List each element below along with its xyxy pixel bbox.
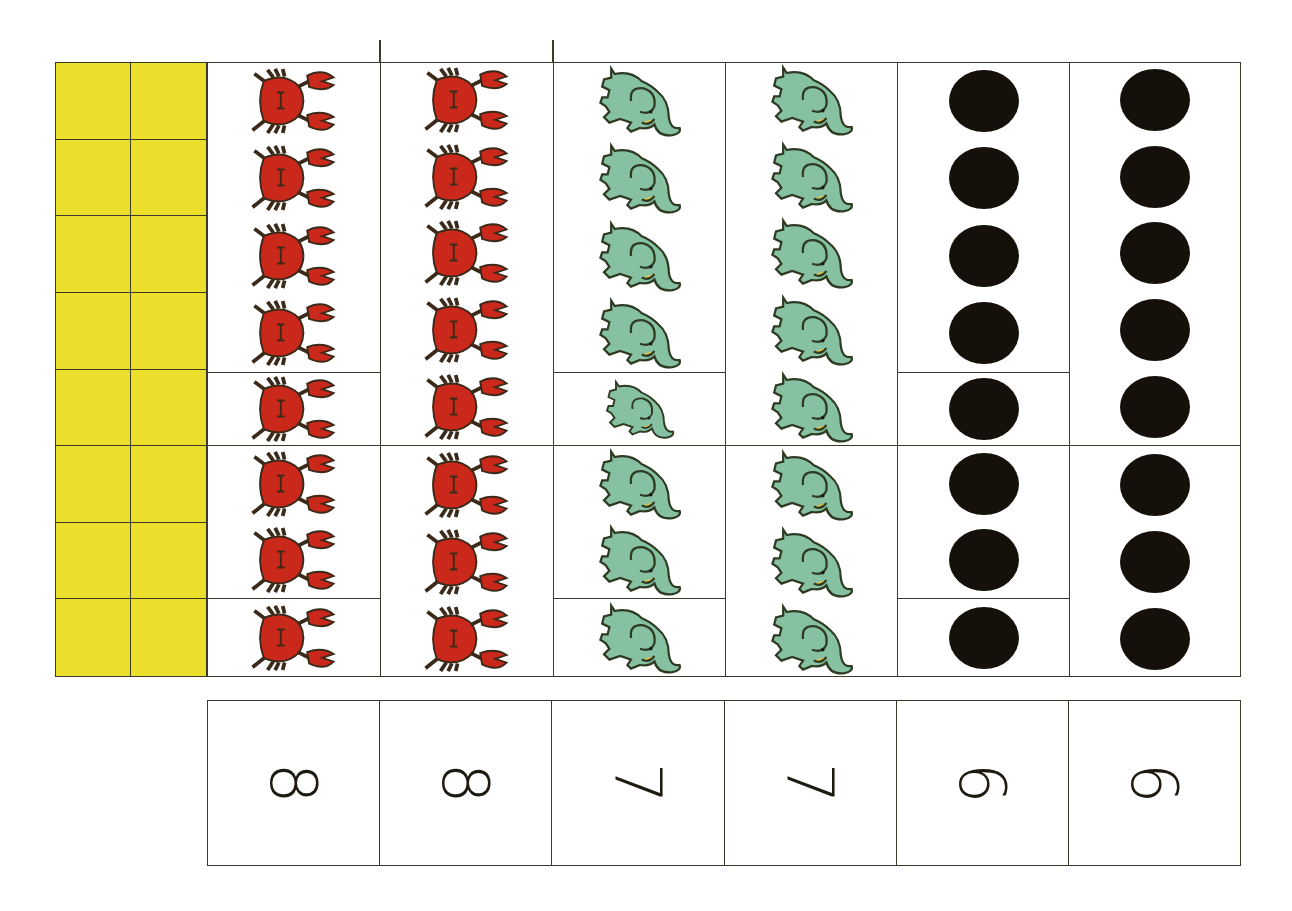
elephant-icon xyxy=(590,65,690,137)
crab-icon xyxy=(417,452,517,518)
crab-icon xyxy=(417,220,517,286)
group-of-2 xyxy=(898,446,1069,599)
tick-mark xyxy=(379,40,381,62)
crab-icon xyxy=(244,68,344,134)
crab-icon xyxy=(417,374,517,440)
elephant-icon xyxy=(590,602,690,674)
elephant-icon xyxy=(762,449,862,521)
group-of-1 xyxy=(208,373,380,446)
group-of-1 xyxy=(898,373,1069,446)
elephant-icon xyxy=(762,294,862,366)
ten-frame-cell xyxy=(56,63,131,140)
ten-frame-cell xyxy=(56,523,131,600)
crab-icon xyxy=(244,145,344,211)
number-card-digit: 6 xyxy=(950,763,1014,804)
number-card[interactable]: 6 xyxy=(897,701,1069,865)
number-card[interactable]: 8 xyxy=(380,701,552,865)
crab-icon xyxy=(244,300,344,366)
group-of-1 xyxy=(898,599,1069,677)
crab-icon xyxy=(417,606,517,672)
group-of-4 xyxy=(208,62,380,373)
ten-frame-cell xyxy=(131,216,206,293)
dot-icon xyxy=(1120,454,1190,516)
elephant-icon xyxy=(762,64,862,136)
dot-icon xyxy=(1120,376,1190,438)
ten-frame xyxy=(55,62,207,677)
number-card[interactable]: 6 xyxy=(1069,701,1240,865)
crab-icon xyxy=(417,67,517,133)
group-of-5 xyxy=(1070,62,1240,446)
crab-icon xyxy=(244,376,344,442)
crab-column-2 xyxy=(380,62,553,677)
number-card[interactable]: 7 xyxy=(552,701,724,865)
ten-frame-cell xyxy=(56,370,131,447)
group-of-5 xyxy=(726,62,897,446)
crab-icon xyxy=(417,529,517,595)
crab-icon xyxy=(244,451,344,517)
ten-frame-cell xyxy=(56,599,131,676)
ten-frame-cell xyxy=(131,446,206,523)
ten-frame-cell xyxy=(131,523,206,600)
ten-frame-cell xyxy=(56,140,131,217)
number-card[interactable]: 7 xyxy=(725,701,897,865)
crab-icon xyxy=(417,297,517,363)
dot-icon xyxy=(949,453,1019,515)
elephant-icon xyxy=(762,603,862,675)
ten-frame-cell xyxy=(131,140,206,217)
dot-icon xyxy=(1120,69,1190,131)
dot-icon xyxy=(949,70,1019,132)
crab-icon xyxy=(417,144,517,210)
dot-icon xyxy=(949,378,1019,440)
dot-icon xyxy=(949,302,1019,364)
group-of-2 xyxy=(554,446,725,599)
dot-icon xyxy=(1120,608,1190,670)
number-card-digit: 7 xyxy=(606,763,670,804)
dot-icon xyxy=(949,225,1019,287)
crab-icon xyxy=(244,527,344,593)
ten-frame-cell xyxy=(131,599,206,676)
elephant-icon xyxy=(762,371,862,443)
group-of-3 xyxy=(381,446,553,677)
group-of-3 xyxy=(1070,446,1240,677)
tick-mark xyxy=(552,40,554,62)
elephant-icon xyxy=(590,524,690,596)
ten-frame-cell xyxy=(131,63,206,140)
elephant-icon xyxy=(590,297,690,369)
elephant-icon xyxy=(762,141,862,213)
crab-icon xyxy=(244,605,344,671)
ten-frame-cell xyxy=(131,293,206,370)
number-card-digit: 7 xyxy=(778,763,842,804)
ten-frame-cell xyxy=(131,370,206,447)
group-of-4 xyxy=(554,62,725,373)
crab-icon xyxy=(244,223,344,289)
number-card-digit: 8 xyxy=(434,763,498,804)
number-cards-row: 8 8 7 7 6 6 xyxy=(207,700,1241,866)
dot-column-2 xyxy=(1069,62,1241,677)
group-of-2 xyxy=(208,446,380,599)
group-of-1 xyxy=(554,599,725,677)
elephant-icon xyxy=(590,142,690,214)
number-card-digit: 6 xyxy=(1122,763,1186,804)
dot-column-1 xyxy=(897,62,1069,677)
number-card[interactable]: 8 xyxy=(208,701,380,865)
elephant-icon xyxy=(590,448,690,520)
group-of-3 xyxy=(726,446,897,677)
group-of-1 xyxy=(208,599,380,677)
ten-frame-cell xyxy=(56,293,131,370)
dot-icon xyxy=(1120,531,1190,593)
elephant-column-1 xyxy=(553,62,725,677)
dot-icon xyxy=(949,529,1019,591)
crab-column-1 xyxy=(207,62,380,677)
elephant-column-2 xyxy=(725,62,897,677)
elephant-icon xyxy=(590,220,690,292)
elephant-icon xyxy=(598,379,682,439)
group-of-5 xyxy=(381,62,553,446)
group-of-1 xyxy=(554,373,725,446)
dot-icon xyxy=(1120,146,1190,208)
elephant-icon xyxy=(762,526,862,598)
ten-frame-cell xyxy=(56,446,131,523)
group-of-4 xyxy=(898,62,1069,373)
ten-frame-cell xyxy=(56,216,131,293)
dot-icon xyxy=(1120,299,1190,361)
elephant-icon xyxy=(762,217,862,289)
